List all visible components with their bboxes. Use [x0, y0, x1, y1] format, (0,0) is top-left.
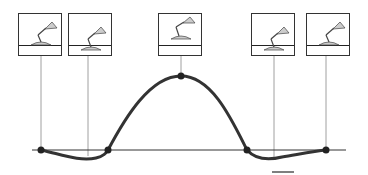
keyframe-3 [158, 13, 202, 56]
keypoint-dot [38, 147, 45, 154]
keypoint-dot [244, 147, 251, 154]
lamp-landing-icon [252, 14, 296, 57]
keypoint-dot [323, 147, 330, 154]
keypoints [38, 73, 330, 154]
lamp-rising-icon [69, 14, 113, 57]
keyframe-5 [306, 13, 350, 56]
lamp-crouched-icon [307, 14, 351, 57]
timing-curve [41, 76, 326, 159]
keypoint-dot [105, 147, 112, 154]
keyframe-1 [18, 13, 62, 56]
keypoint-dot [178, 73, 185, 80]
lamp-crouched-icon [19, 14, 63, 57]
keyframe-2 [68, 13, 112, 56]
diagram-canvas [0, 0, 368, 175]
lamp-airborne-icon [159, 14, 203, 57]
keyframe-4 [251, 13, 295, 56]
guide-lines [41, 56, 326, 157]
